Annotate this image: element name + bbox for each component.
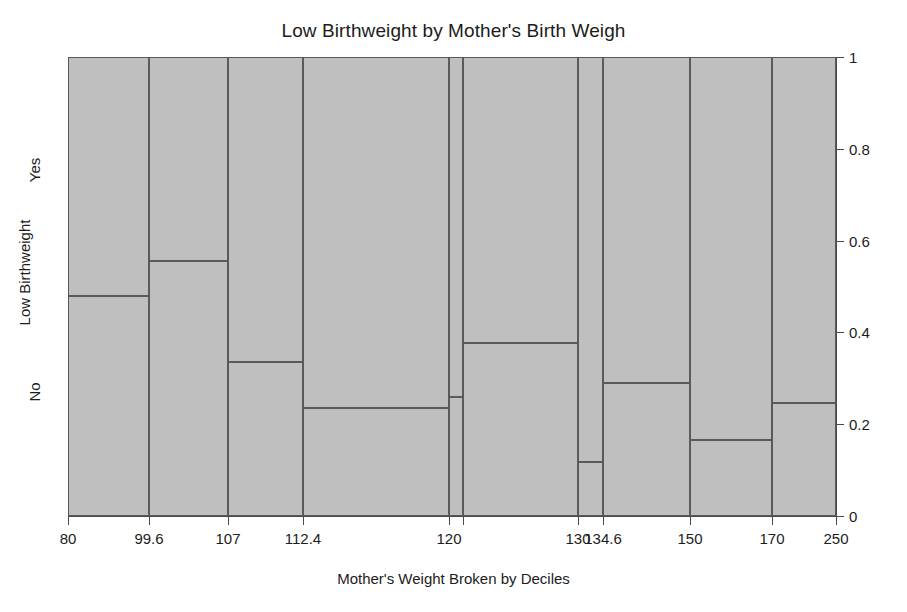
mosaic-tile-no	[603, 383, 690, 516]
mosaic-column	[303, 57, 449, 516]
x-tick-label: 134.6	[584, 530, 622, 547]
mosaic-tile-yes	[68, 57, 149, 296]
mosaic-plot-figure: Low Birthweight by Mother's Birth Weigh …	[0, 0, 907, 612]
mosaic-column	[449, 57, 463, 516]
y-tick-mark	[836, 241, 844, 242]
x-tick-label: 80	[60, 530, 77, 547]
y-axis-title: Low Birthweight	[16, 173, 33, 373]
x-tick-mark	[149, 516, 150, 525]
y-tick-mark	[836, 424, 844, 425]
y-tick-label: 0.6	[849, 232, 870, 249]
x-tick-mark	[578, 516, 579, 525]
mosaic-tile-no	[68, 296, 149, 516]
x-tick-mark	[603, 516, 604, 525]
y-category-label: No	[26, 382, 43, 401]
y-tick-label: 0.2	[849, 416, 870, 433]
x-tick-label: 120	[436, 530, 461, 547]
x-tick-label: 250	[823, 530, 848, 547]
mosaic-tile-yes	[690, 57, 772, 440]
mosaic-column	[149, 57, 228, 516]
mosaic-tile-yes	[463, 57, 578, 343]
mosaic-tile-no	[463, 343, 578, 516]
mosaic-tile-yes	[449, 57, 463, 397]
mosaic-tile-yes	[578, 57, 603, 462]
mosaic-column	[603, 57, 690, 516]
mosaic-tile-no	[772, 403, 836, 516]
mosaic-tile-no	[149, 261, 228, 516]
mosaic-column	[772, 57, 836, 516]
x-axis-line	[68, 516, 837, 517]
mosaic-tile-no	[303, 408, 449, 516]
y-tick-label: 0	[849, 508, 857, 525]
plot-panel	[68, 57, 836, 516]
mosaic-tile-yes	[149, 57, 228, 261]
x-tick-label: 112.4	[285, 530, 321, 547]
y-tick-label: 0.4	[849, 324, 870, 341]
mosaic-column	[68, 57, 149, 516]
y-axis-line	[836, 57, 837, 516]
mosaic-tile-no	[578, 462, 603, 516]
y-tick-label: 1	[849, 49, 857, 66]
y-tick-mark	[836, 516, 844, 517]
x-tick-mark	[690, 516, 691, 525]
x-tick-mark	[836, 516, 837, 525]
y-category-label: Yes	[26, 158, 43, 182]
x-tick-mark	[228, 516, 229, 525]
mosaic-tile-yes	[303, 57, 449, 408]
y-tick-mark	[836, 149, 844, 150]
x-tick-label: 150	[677, 530, 702, 547]
mosaic-column	[690, 57, 772, 516]
mosaic-tile-yes	[603, 57, 690, 383]
y-tick-label: 0.8	[849, 140, 870, 157]
mosaic-column	[463, 57, 578, 516]
x-tick-label: 107	[215, 530, 240, 547]
mosaic-column	[228, 57, 303, 516]
x-tick-label: 99.6	[134, 530, 163, 547]
x-tick-mark	[463, 516, 464, 525]
mosaic-tile-no	[690, 440, 772, 516]
mosaic-tile-no	[449, 397, 463, 516]
x-tick-mark	[303, 516, 304, 525]
mosaic-column	[578, 57, 603, 516]
x-tick-mark	[68, 516, 69, 525]
x-axis-title: Mother's Weight Broken by Deciles	[0, 570, 907, 587]
x-tick-label: 170	[759, 530, 784, 547]
mosaic-tile-yes	[228, 57, 303, 362]
y-tick-mark	[836, 332, 844, 333]
mosaic-tile-yes	[772, 57, 836, 403]
y-tick-mark	[836, 57, 844, 58]
x-tick-mark	[772, 516, 773, 525]
mosaic-tile-no	[228, 362, 303, 516]
x-tick-mark	[449, 516, 450, 525]
page-title: Low Birthweight by Mother's Birth Weigh	[0, 20, 907, 42]
